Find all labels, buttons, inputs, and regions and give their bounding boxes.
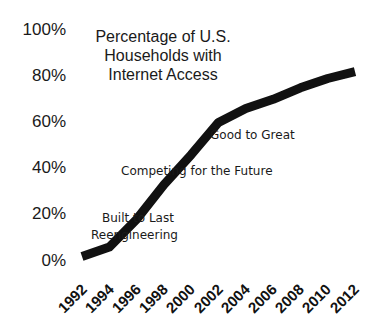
annotation-built-to-last: Built to Last [102, 210, 174, 226]
annotation-good-to-great: Good to Great [210, 127, 295, 143]
annotation-competing-for-the-future: Competing for the Future [121, 163, 273, 179]
annotation-reengineering: Reengineering [91, 227, 178, 243]
